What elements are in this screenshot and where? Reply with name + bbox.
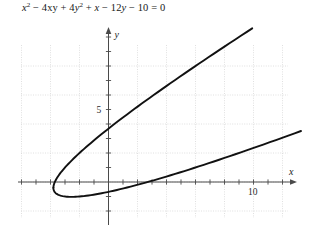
x-axis-arrowhead bbox=[290, 179, 297, 185]
y-tick-label-5: 5 bbox=[97, 105, 102, 115]
y-axis-label: y bbox=[114, 29, 120, 40]
equation-segment-2: + bbox=[83, 2, 94, 13]
equation-segment-3: − 12 bbox=[99, 2, 121, 13]
coordinate-plot: x y 10 5 bbox=[0, 0, 311, 231]
figure-container: x2 − 4xy + 4y2 + x − 12y − 10 = 0 x y 10… bbox=[0, 0, 311, 231]
curve-upper-branch bbox=[53, 28, 252, 187]
conic-curve bbox=[53, 28, 301, 197]
x-axis-label: x bbox=[288, 166, 294, 177]
axis-ticks bbox=[22, 37, 283, 211]
equation-segment-1: − 4xy + 4 bbox=[30, 2, 74, 13]
equation-caption: x2 − 4xy + 4y2 + x − 12y − 10 = 0 bbox=[22, 2, 165, 13]
equation-segment-4: − 10 = 0 bbox=[126, 2, 165, 13]
curve-lower-branch bbox=[53, 131, 301, 197]
y-axis-arrowhead bbox=[106, 27, 112, 34]
x-tick-label-10: 10 bbox=[248, 187, 258, 197]
